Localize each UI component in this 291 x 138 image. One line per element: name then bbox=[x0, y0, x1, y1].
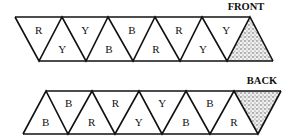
back-label: BACK bbox=[247, 75, 278, 86]
triangle-label: Y bbox=[135, 116, 143, 128]
triangle-label: B bbox=[128, 24, 135, 36]
front-label: FRONT bbox=[228, 1, 265, 12]
triangle-label: Y bbox=[81, 24, 89, 36]
triangle-label: B bbox=[65, 97, 72, 109]
hexaflexagon-strip-diagram: RYBRYYBRY BRYBBRYBR FRONT BACK bbox=[0, 0, 291, 138]
back-strip: BRYBBRYBR bbox=[23, 91, 281, 134]
shaded-triangle bbox=[234, 91, 281, 134]
triangle-label: Y bbox=[199, 43, 207, 55]
triangle-label: Y bbox=[158, 97, 166, 109]
triangle-label: B bbox=[182, 116, 189, 128]
triangle-label: R bbox=[35, 24, 43, 36]
triangle-label: B bbox=[206, 97, 213, 109]
triangle-label: R bbox=[175, 24, 183, 36]
triangle-label: R bbox=[112, 97, 120, 109]
triangle-label: R bbox=[152, 43, 160, 55]
shaded-triangle bbox=[227, 17, 273, 61]
triangle-label: B bbox=[105, 43, 112, 55]
triangle-label: R bbox=[230, 116, 238, 128]
triangle-label: R bbox=[88, 116, 96, 128]
front-strip: RYBRYYBRY bbox=[15, 17, 273, 61]
triangle-label: Y bbox=[222, 24, 230, 36]
triangle-label: Y bbox=[58, 43, 66, 55]
triangle-label: B bbox=[42, 116, 49, 128]
